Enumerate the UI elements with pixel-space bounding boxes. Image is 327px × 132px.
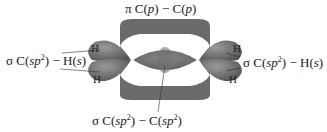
hydrogen-label-left-bottom: H — [93, 74, 101, 85]
sigma-ch-label-left: σ C(sp2) − H(s) — [6, 54, 86, 67]
hydrogen-label-right-top: H — [233, 43, 241, 54]
hydrogen-label-left-top: H — [91, 43, 99, 54]
sigma-cc-label: σ C(sp2) − C(sp2) — [92, 114, 182, 127]
sigma-ch-label-right: σ C(sp2) − H(s) — [243, 56, 323, 69]
pi-bond-label: π C(p) − C(p) — [125, 2, 196, 15]
hydrogen-label-right-bottom: H — [229, 74, 237, 85]
sigma-cc-lobe — [133, 47, 197, 73]
